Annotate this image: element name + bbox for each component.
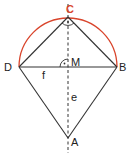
diagram-canvas: C D B M A f e	[0, 0, 131, 155]
right-angle-dot-m	[64, 63, 66, 65]
kite-diagram: C D B M A f e	[0, 0, 131, 155]
right-angle-dot-c	[67, 21, 69, 23]
point-label-m: M	[71, 56, 80, 68]
point-label-c: C	[66, 3, 74, 15]
segment-label-e: e	[71, 91, 77, 103]
point-label-b: B	[119, 61, 126, 73]
point-label-d: D	[4, 61, 12, 73]
segment-label-f: f	[42, 69, 46, 81]
point-label-a: A	[71, 136, 79, 148]
